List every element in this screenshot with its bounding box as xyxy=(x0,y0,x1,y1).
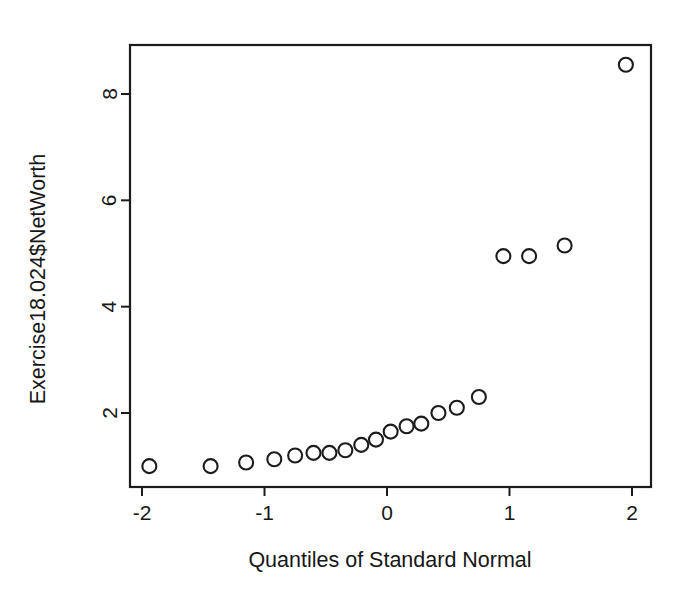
plot-canvas: -2-1012 2468 Quantiles of Standard Norma… xyxy=(0,0,683,610)
x-tick-label: -1 xyxy=(255,501,274,524)
x-tick-label: 2 xyxy=(626,501,638,524)
x-tick-label: 0 xyxy=(381,501,393,524)
x-axis-title: Quantiles of Standard Normal xyxy=(248,548,531,572)
y-tick-label: 2 xyxy=(98,407,121,419)
qq-plot-figure: -2-1012 2468 Quantiles of Standard Norma… xyxy=(0,0,683,610)
y-tick-label: 8 xyxy=(98,88,121,100)
x-tick-label: 1 xyxy=(504,501,516,524)
x-tick-label: -2 xyxy=(133,501,152,524)
y-tick-label: 6 xyxy=(98,194,121,206)
y-tick-label: 4 xyxy=(98,301,121,313)
y-axis-title: Exercise18.024$NetWorth xyxy=(26,154,50,405)
